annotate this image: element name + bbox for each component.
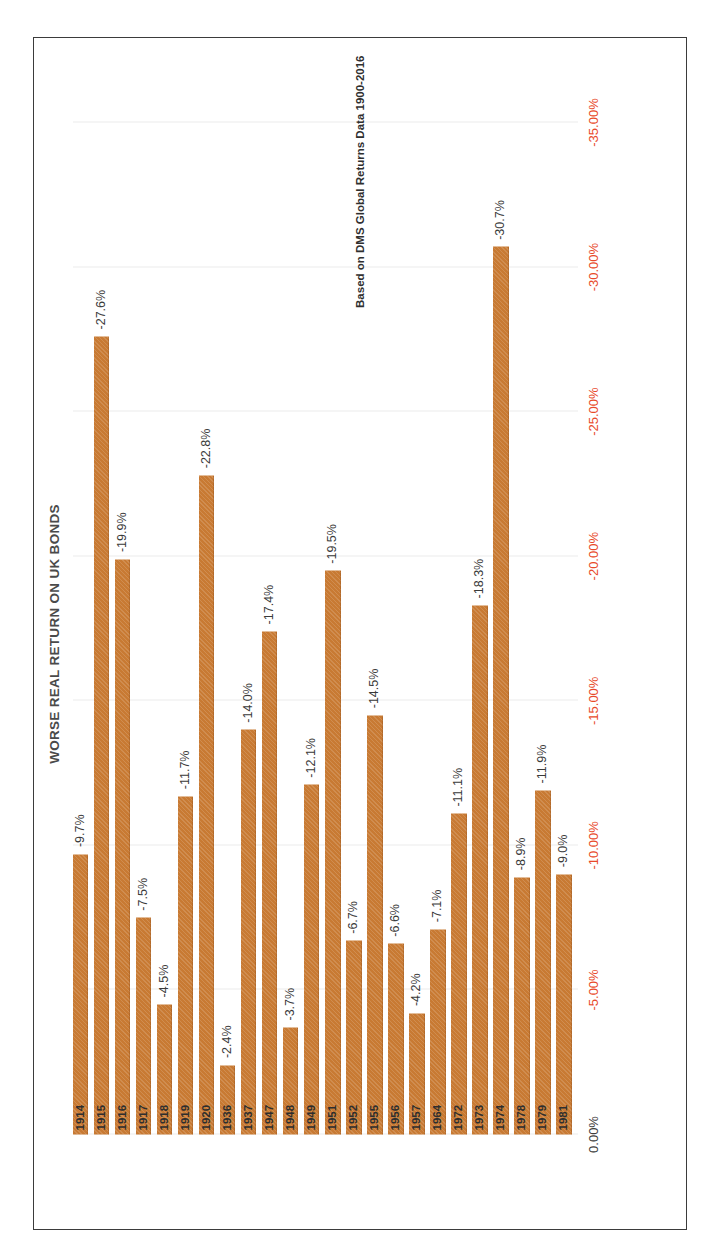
category-label-1947: 1947 [261, 1104, 278, 1130]
data-label-1917: -7.5% [134, 878, 152, 911]
category-label-1914: 1914 [72, 1104, 89, 1130]
bar-1916[interactable] [115, 559, 131, 1134]
bar-1919[interactable] [178, 796, 194, 1134]
category-label-1936: 1936 [219, 1104, 236, 1130]
data-label-1973: -18.3% [470, 558, 488, 598]
category-label-1952: 1952 [345, 1104, 362, 1130]
axis-tick--500: -5.00% [586, 969, 601, 1010]
data-label-1948: -3.7% [281, 987, 299, 1020]
data-label-1957: -4.2% [407, 973, 425, 1006]
data-label-1920: -22.8% [197, 428, 215, 468]
bar-1972[interactable] [451, 813, 467, 1134]
bar-1981[interactable] [556, 874, 572, 1134]
bar-1955[interactable] [367, 715, 383, 1134]
category-label-1956: 1956 [387, 1104, 404, 1130]
category-label-1916: 1916 [114, 1104, 131, 1130]
category-label-1937: 1937 [240, 1104, 257, 1130]
data-label-1936: -2.4% [218, 1025, 236, 1058]
bar-1951[interactable] [325, 570, 341, 1134]
data-label-1979: -11.9% [533, 744, 551, 783]
data-label-1949: -12.1% [302, 738, 320, 778]
axis-tick--2000: -20.00% [586, 532, 601, 580]
data-label-1964: -7.1% [428, 889, 446, 922]
category-label-1920: 1920 [198, 1104, 215, 1130]
data-label-1918: -4.5% [155, 964, 173, 997]
axis-tick-000: 0.00% [586, 1116, 601, 1153]
axis-tick--1500: -15.00% [586, 676, 601, 724]
bar-1937[interactable] [241, 729, 257, 1134]
category-label-1917: 1917 [135, 1104, 152, 1130]
data-label-1972: -11.1% [449, 767, 467, 806]
bar-chart: WORSE REAL RETURN ON UK BONDS 1914-9.7%1… [33, 37, 687, 1230]
bar-1978[interactable] [514, 877, 530, 1134]
category-label-1955: 1955 [366, 1104, 383, 1130]
axis-tick--2500: -25.00% [586, 387, 601, 435]
chart-credit: Based on DMS Global Returns Data 1900-20… [33, 55, 687, 307]
data-label-1914: -9.7% [71, 814, 89, 847]
data-label-1981: -9.0% [554, 834, 572, 867]
category-label-1974: 1974 [492, 1104, 509, 1130]
category-label-1919: 1919 [177, 1104, 194, 1130]
bar-1973[interactable] [472, 605, 488, 1134]
data-label-1955: -14.5% [365, 668, 383, 708]
category-label-1948: 1948 [282, 1104, 299, 1130]
data-label-1947: -17.4% [260, 584, 278, 624]
bar-1915[interactable] [94, 336, 110, 1134]
scanned-page: WORSE REAL RETURN ON UK BONDS 1914-9.7%1… [0, 0, 714, 1244]
category-label-1973: 1973 [471, 1104, 488, 1130]
bar-1920[interactable] [199, 475, 215, 1134]
data-label-1956: -6.6% [386, 904, 404, 937]
data-label-1951: -19.5% [323, 524, 341, 564]
category-label-1972: 1972 [450, 1104, 467, 1130]
bar-1949[interactable] [304, 784, 320, 1134]
bar-1979[interactable] [535, 790, 551, 1134]
chart-rotation-wrapper: WORSE REAL RETURN ON UK BONDS 1914-9.7%1… [33, 37, 687, 1230]
data-label-1919: -11.7% [176, 750, 194, 789]
category-label-1979: 1979 [534, 1104, 551, 1130]
data-label-1952: -6.7% [344, 901, 362, 934]
data-label-1916: -19.9% [113, 512, 131, 552]
category-label-1951: 1951 [324, 1104, 341, 1130]
category-label-1964: 1964 [429, 1104, 446, 1130]
category-label-1981: 1981 [555, 1104, 572, 1130]
credit-text: Based on DMS Global Returns Data 1900-20… [354, 55, 366, 307]
bar-1914[interactable] [73, 854, 89, 1134]
category-label-1918: 1918 [156, 1104, 173, 1130]
category-label-1978: 1978 [513, 1104, 530, 1130]
bar-1974[interactable] [493, 246, 509, 1134]
bar-1947[interactable] [262, 631, 278, 1134]
data-label-1937: -14.0% [239, 683, 257, 723]
data-label-1978: -8.9% [512, 837, 530, 870]
bar-1917[interactable] [136, 917, 152, 1134]
bar-1964[interactable] [430, 929, 446, 1134]
category-label-1957: 1957 [408, 1104, 425, 1130]
category-label-1915: 1915 [93, 1104, 110, 1130]
category-label-1949: 1949 [303, 1104, 320, 1130]
axis-tick--1000: -10.00% [586, 821, 601, 869]
